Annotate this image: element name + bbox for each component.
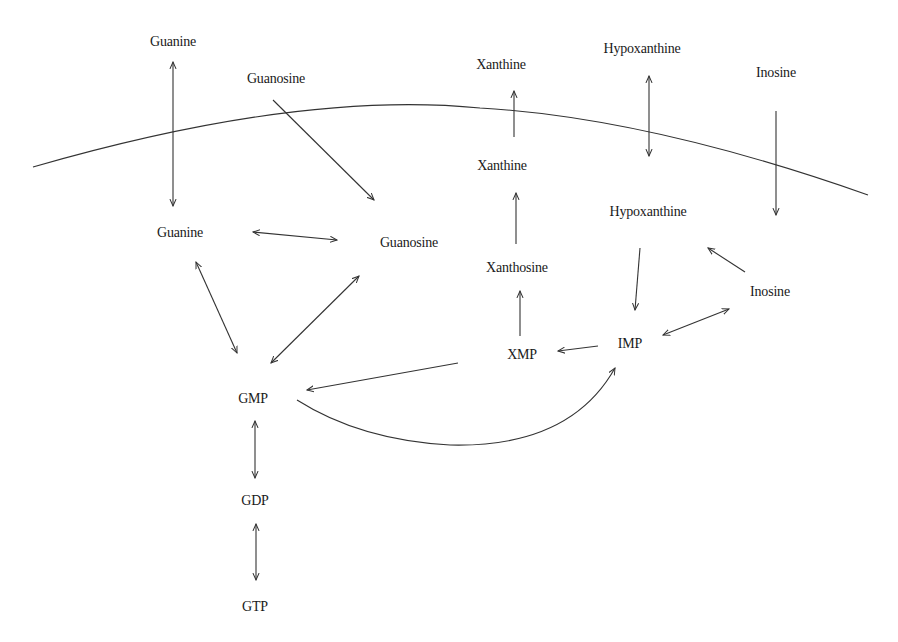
node-gtp: GTP	[242, 599, 268, 615]
edge-guanine-guanosine	[253, 232, 337, 240]
node-hypoxanthine-extracellular: Hypoxanthine	[604, 41, 681, 57]
edge-gmp-imp-curve	[297, 368, 615, 445]
edge-inosine-hypoxanthine	[708, 248, 745, 272]
node-xanthine-extracellular: Xanthine	[476, 57, 526, 73]
edge-imp-inosine	[663, 309, 729, 335]
node-guanine-intracellular: Guanine	[157, 225, 203, 241]
node-xanthosine: Xanthosine	[486, 260, 548, 276]
cell-membrane	[33, 105, 868, 195]
node-xmp: XMP	[507, 347, 537, 363]
node-imp: IMP	[618, 336, 642, 352]
edge-imp-xmp	[558, 346, 598, 351]
node-guanosine-intracellular: Guanosine	[380, 235, 438, 251]
node-guanosine-extracellular: Guanosine	[247, 71, 305, 87]
node-gmp: GMP	[238, 391, 268, 407]
node-inosine-extracellular: Inosine	[756, 65, 796, 81]
edge-guanosine-transport	[273, 100, 374, 200]
edge-guanine-gmp	[196, 262, 237, 353]
node-gdp: GDP	[241, 493, 268, 509]
node-guanine-extracellular: Guanine	[150, 34, 196, 50]
diagram-lines	[0, 0, 898, 642]
node-inosine-intracellular: Inosine	[750, 284, 790, 300]
edge-guanosine-gmp	[271, 276, 359, 363]
node-hypoxanthine-intracellular: Hypoxanthine	[610, 204, 687, 220]
edge-xmp-gmp	[307, 363, 458, 390]
edge-hypoxanthine-imp	[635, 248, 640, 310]
node-xanthine-intracellular: Xanthine	[477, 158, 527, 174]
pathway-diagram: Guanine Guanosine Xanthine Hypoxanthine …	[0, 0, 898, 642]
